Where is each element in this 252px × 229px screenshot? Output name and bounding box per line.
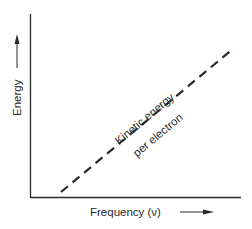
arrow-up-icon: [15, 34, 20, 44]
energy-frequency-diagram: Kinetic energy per electron Energy Frequ…: [0, 0, 252, 229]
arrow-right-icon: [203, 210, 214, 215]
y-axis-label: Energy: [11, 79, 23, 116]
x-axis-label: Frequency (ν): [90, 206, 161, 218]
